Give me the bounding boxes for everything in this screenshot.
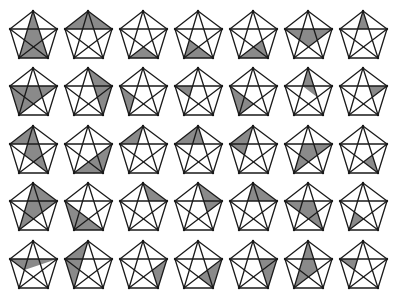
pentagon-figure [174,240,223,289]
vertex-dot [284,143,286,145]
vertex-dot [166,258,168,260]
pentagon-edge [10,201,19,230]
vertex-dot [142,182,144,184]
star-diagonal [198,68,213,115]
vertex-dot [284,200,286,202]
vertex-dot [307,67,309,69]
vertex-dot [197,67,199,69]
pentagon-edge [285,144,294,173]
pentagon-edge [198,11,222,29]
vertex-dot [47,172,49,174]
pentagon-edge [230,29,239,58]
vertex-dot [229,258,231,260]
vertex-dot [229,85,231,87]
vertex-dot [339,85,341,87]
star-diagonal [129,201,167,230]
vertex-dot [386,200,388,202]
pentagon-edge [48,144,57,173]
vertex-dot [142,240,144,242]
vertex-dot [252,10,254,12]
star-diagonal [340,201,378,230]
vertex-dot [212,57,214,59]
star-diagonal [239,241,253,288]
vertex-dot [293,114,295,116]
vertex-dot [284,85,286,87]
vertex-dot [9,28,11,30]
pentagon-edge [268,201,277,230]
vertex-dot [157,229,159,231]
star-diagonal [239,201,277,230]
vertex-dot [102,114,104,116]
vertex-dot [47,114,49,116]
pentagon-edge [340,241,363,259]
pentagon-edge [88,241,112,259]
vertex-dot [87,240,89,242]
pentagon-edge [378,29,387,58]
vertex-dot [9,143,11,145]
star-diagonal [363,11,378,58]
vertex-dot [348,114,350,116]
pentagon-edge [120,11,143,29]
pentagon-figure [229,125,278,174]
star-diagonal [184,144,222,173]
pentagon-edge [363,241,387,259]
vertex-dot [128,229,130,231]
pentagon-edge [308,126,332,144]
star-diagonal [143,241,158,288]
vertex-dot [362,240,364,242]
vertex-dot [293,172,295,174]
star-diagonal [74,68,88,115]
pentagon-figure [174,182,223,231]
pentagon-edge [120,68,143,86]
star-diagonal [129,86,167,115]
pentagon-edge [285,126,308,144]
pentagon-edge [120,259,129,288]
pentagon-edge [158,86,167,115]
pentagon-edge [253,11,277,29]
star-diagonal [175,86,213,115]
pentagon-figure [284,240,333,289]
vertex-dot [128,57,130,59]
pentagon-grid [0,0,396,302]
pentagon-edge [65,29,74,58]
vertex-dot [166,143,168,145]
vertex-dot [87,10,89,12]
vertex-dot [276,143,278,145]
pentagon-edge [323,259,332,288]
pentagon-edge [65,183,88,201]
star-diagonal [184,201,222,230]
pentagon-edge [175,144,184,173]
vertex-dot [119,200,121,202]
pentagon-edge [103,29,112,58]
star-diagonal [253,126,268,173]
vertex-dot [307,125,309,127]
vertex-dot [18,114,20,116]
vertex-dot [87,125,89,127]
vertex-dot [32,10,34,12]
vertex-dot [166,200,168,202]
pentagon-edge [230,11,253,29]
pentagon-edge [158,29,167,58]
pentagon-edge [253,68,277,86]
vertex-dot [221,143,223,145]
star-diagonal [294,68,308,115]
vertex-dot [183,114,185,116]
pentagon-edge [65,144,74,173]
pentagon-edge [88,183,112,201]
vertex-dot [56,143,58,145]
pentagon-figure [119,182,168,231]
pentagon-edge [213,29,222,58]
pentagon-edge [48,259,57,288]
pentagon-edge [268,144,277,173]
vertex-dot [157,172,159,174]
vertex-dot [73,229,75,231]
vertex-dot [183,287,185,289]
vertex-dot [174,143,176,145]
vertex-dot [221,28,223,30]
pentagon-edge [378,144,387,173]
vertex-dot [87,67,89,69]
pentagon-edge [120,29,129,58]
vertex-dot [267,172,269,174]
pentagon-figure [174,125,223,174]
vertex-dot [174,258,176,260]
